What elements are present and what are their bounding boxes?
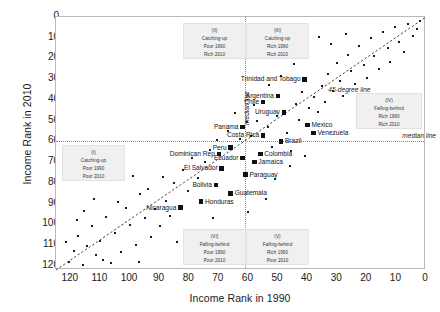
data-point <box>394 26 396 28</box>
data-point <box>216 139 218 141</box>
y-tick-60: 60 <box>25 134 59 145</box>
data-point-marker <box>252 160 257 165</box>
quadrant-box-line: Catching-up <box>249 35 306 43</box>
data-point <box>187 190 189 192</box>
data-point-marker <box>243 172 248 177</box>
data-point <box>370 37 372 39</box>
x-tick-110: 110 <box>84 272 114 283</box>
point-label: El Salvador <box>184 165 218 172</box>
data-point <box>99 240 101 242</box>
data-point <box>366 77 368 79</box>
data-point <box>239 138 241 140</box>
data-point <box>350 70 352 72</box>
quadrant-box-III: (III)Catching-upRich 1990Rich 2010 <box>246 23 309 59</box>
data-point <box>373 55 375 57</box>
data-point-marker <box>199 199 204 204</box>
data-point <box>330 43 332 45</box>
y-tick-90: 90 <box>25 197 59 208</box>
point-label: Bolivia <box>192 182 211 189</box>
data-point-marker <box>302 77 307 82</box>
quadrant-box-line: Falling-behind <box>186 241 243 249</box>
quadrant-box-line: (V) <box>249 233 306 241</box>
quadrant-box-line: (IV) <box>359 97 419 105</box>
y-tick-10: 10 <box>25 31 59 42</box>
data-point <box>150 236 152 238</box>
data-point-marker <box>258 152 263 157</box>
data-point <box>173 182 175 184</box>
data-point <box>93 198 95 200</box>
data-point <box>73 250 75 252</box>
data-point-marker <box>282 110 287 115</box>
data-point <box>268 84 270 86</box>
data-point <box>68 261 70 263</box>
data-point <box>345 33 347 35</box>
quadrant-box-line: Rich 1990 <box>249 249 306 257</box>
scatter-chart: Income Rank in 2010 Income Rank in 1990 … <box>0 0 440 312</box>
data-point <box>197 177 199 179</box>
x-axis-title: Income Rank in 1990 <box>55 292 425 304</box>
data-point <box>132 175 134 177</box>
quadrant-box-V: (V)Falling-behindRich 1990Poor 2010 <box>246 229 309 265</box>
data-point <box>339 80 341 82</box>
x-tick-50: 50 <box>262 272 292 283</box>
data-point <box>176 241 178 243</box>
data-point <box>398 41 400 43</box>
quadrant-box-line: Catching-up <box>65 157 122 165</box>
data-point <box>102 259 104 261</box>
data-point <box>83 210 85 212</box>
point-label: Costa Rica <box>227 132 259 139</box>
data-point-marker <box>240 125 245 130</box>
quadrant-box-line: (II) <box>186 27 243 35</box>
quadrant-box-line: Rich 2010 <box>249 51 306 59</box>
quadrant-box-line: Falling-behind <box>359 105 419 113</box>
data-point-marker <box>214 183 219 188</box>
data-point <box>114 232 116 234</box>
median-line-horizontal-label: median line <box>402 132 436 139</box>
data-point <box>403 51 405 53</box>
data-point <box>169 215 171 217</box>
point-label: Trinidad and Tobago <box>241 76 301 83</box>
data-point <box>378 68 380 70</box>
x-tick-30: 30 <box>321 272 351 283</box>
median-line-vertical-label: median line <box>243 91 250 125</box>
data-point <box>308 107 310 109</box>
point-label: Nicaragua <box>146 204 176 211</box>
quadrant-box-line: (III) <box>249 27 306 35</box>
data-point <box>324 101 326 103</box>
data-point <box>139 193 141 195</box>
data-point-marker <box>261 100 266 105</box>
point-label: Dominican Rep <box>170 151 215 158</box>
data-point <box>256 120 258 122</box>
data-point <box>342 95 344 97</box>
data-point <box>347 54 349 56</box>
data-point <box>204 161 206 163</box>
data-point-marker <box>279 139 284 144</box>
data-point-marker <box>305 123 310 128</box>
quadrant-box-line: Poor 1990 <box>186 43 243 51</box>
data-point <box>110 262 112 264</box>
data-point <box>165 200 167 202</box>
y-tick-50: 50 <box>25 114 59 125</box>
quadrant-box-line: Rich 1990 <box>359 113 419 121</box>
data-point <box>125 207 127 209</box>
y-tick-110: 110 <box>25 238 59 249</box>
data-point-marker <box>178 205 183 210</box>
data-point <box>117 201 119 203</box>
y-tick-30: 30 <box>25 72 59 83</box>
data-point <box>318 36 320 38</box>
x-tick-100: 100 <box>114 272 144 283</box>
y-tick-70: 70 <box>25 155 59 166</box>
data-point <box>135 244 137 246</box>
data-point <box>82 264 84 266</box>
data-point <box>416 28 418 30</box>
y-tick-0: 0 <box>25 10 59 21</box>
data-point <box>76 219 78 221</box>
data-point <box>412 35 414 37</box>
data-point <box>129 224 131 226</box>
point-label: Colombia <box>264 151 292 158</box>
data-point <box>65 241 67 243</box>
quadrant-box-line: Poor 1990 <box>65 165 122 173</box>
quadrant-box-line: Falling-behind <box>249 241 306 249</box>
data-point-marker <box>311 131 316 136</box>
x-tick-60: 60 <box>232 272 262 283</box>
